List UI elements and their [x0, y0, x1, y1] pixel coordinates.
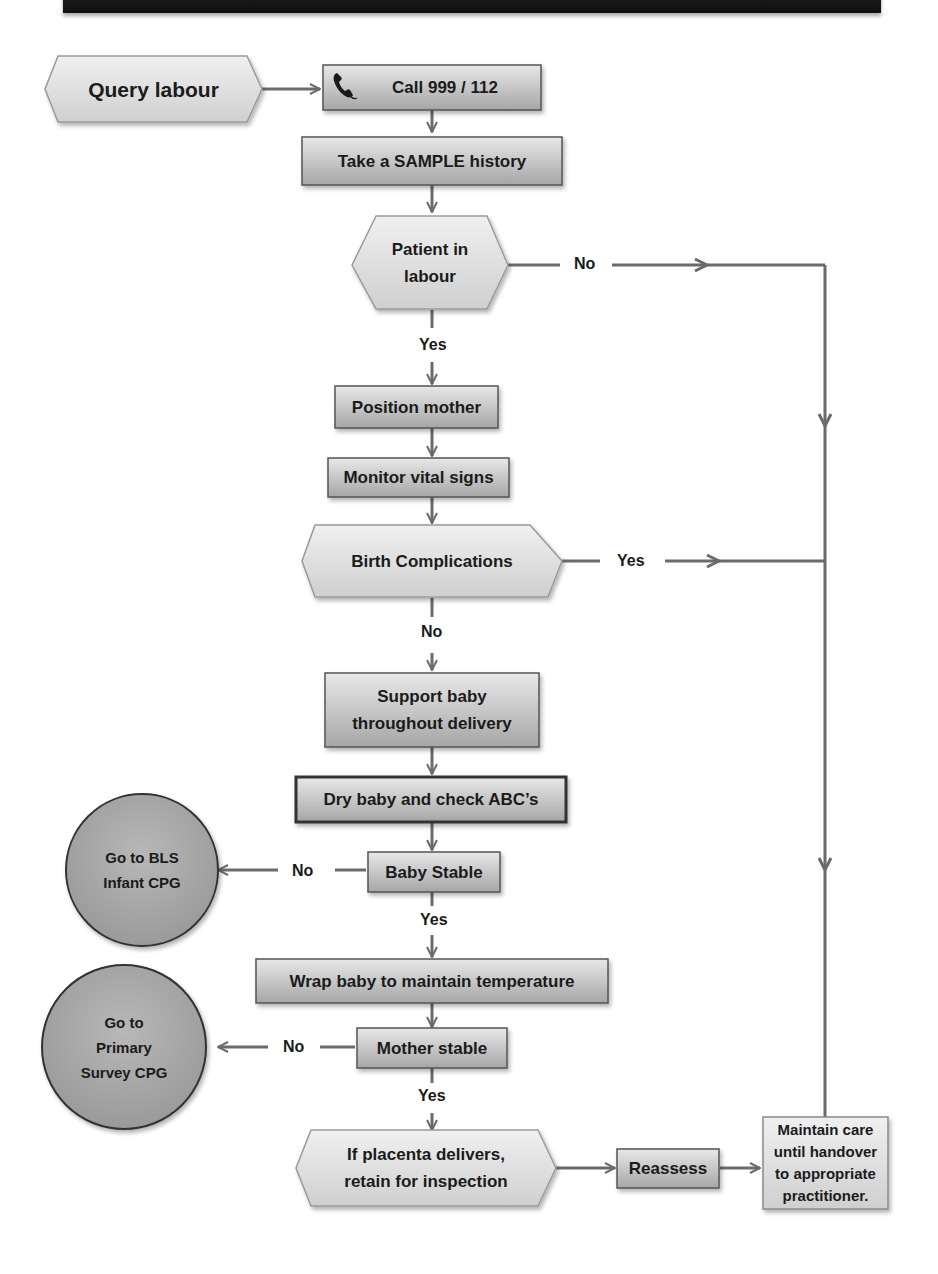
node-wrap-baby — [256, 959, 608, 1003]
edge-label-complications-yes: Yes — [617, 552, 645, 570]
node-sample-history — [302, 137, 562, 185]
edge-label-mother-no: No — [283, 1038, 304, 1056]
node-go-to-primary-survey — [42, 965, 206, 1129]
node-query-labour — [45, 56, 262, 122]
edge-label-labour-no: No — [574, 255, 595, 273]
node-support-baby — [325, 673, 539, 747]
node-baby-stable — [368, 852, 500, 892]
node-position-mother — [335, 386, 498, 428]
flowchart-canvas — [0, 0, 938, 1274]
node-reassess — [617, 1149, 719, 1188]
node-patient-in-labour — [352, 216, 508, 309]
edge-label-baby-yes: Yes — [420, 911, 448, 929]
node-placenta — [296, 1130, 556, 1206]
edge-label-baby-no: No — [292, 862, 313, 880]
edge-label-complications-no: No — [421, 623, 442, 641]
node-maintain-care — [763, 1117, 888, 1209]
phone-icon — [332, 71, 358, 101]
node-go-to-bls — [66, 794, 218, 946]
node-dry-baby — [296, 777, 566, 822]
node-mother-stable — [357, 1028, 507, 1068]
edge-label-labour-yes: Yes — [419, 336, 447, 354]
node-birth-complications — [302, 525, 562, 597]
edge-label-mother-yes: Yes — [418, 1087, 446, 1105]
node-monitor-vitals — [328, 458, 509, 497]
